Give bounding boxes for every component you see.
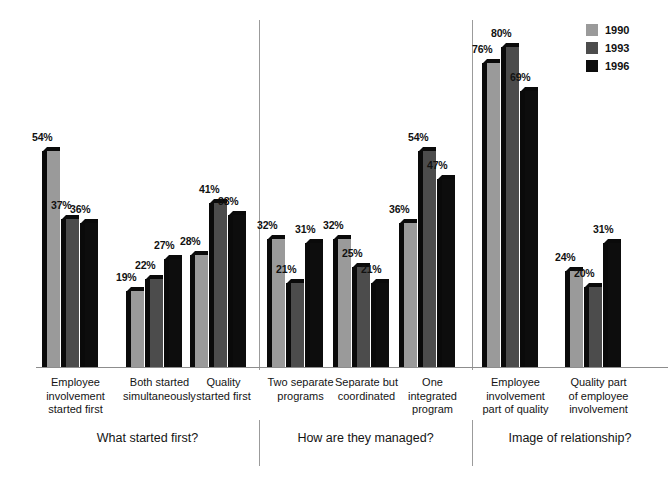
bar-value-label: 20%	[574, 267, 594, 279]
bar-value-label: 27%	[154, 239, 174, 251]
bar	[291, 283, 304, 367]
bar	[357, 267, 370, 367]
bar	[310, 243, 323, 367]
bar-value-label: 32%	[257, 219, 277, 231]
bar-value-label: 41%	[199, 183, 219, 195]
bar-front-face	[570, 271, 583, 367]
bar-front-face	[272, 239, 285, 367]
bar-front-face	[404, 223, 417, 367]
legend-swatch	[586, 60, 598, 72]
bar-value-label: 76%	[472, 43, 492, 55]
bar-front-face	[66, 219, 79, 367]
bar	[570, 271, 583, 367]
bar-value-label: 80%	[491, 27, 511, 39]
bar	[525, 91, 538, 367]
bar	[131, 291, 144, 367]
bar-value-label: 47%	[427, 159, 447, 171]
section-title: What started first?	[36, 431, 259, 445]
bar-front-face	[169, 259, 182, 367]
legend: 199019931996	[586, 22, 629, 76]
bar	[169, 259, 182, 367]
bar	[423, 151, 436, 367]
legend-item: 1996	[586, 58, 629, 73]
bar	[404, 223, 417, 367]
bar-value-label: 25%	[342, 247, 362, 259]
bar-front-face	[195, 255, 208, 367]
bar-value-label: 31%	[295, 223, 315, 235]
bar-chart: 54%37%36%19%22%27%28%41%38%32%21%31%32%2…	[0, 0, 668, 486]
bar-front-face	[131, 291, 144, 367]
bar	[376, 283, 389, 367]
bar-front-face	[525, 91, 538, 367]
bar-value-label: 54%	[32, 131, 52, 143]
bar	[214, 203, 227, 367]
bar-value-label: 69%	[510, 71, 530, 83]
bar-value-label: 28%	[180, 235, 200, 247]
bar-value-label: 37%	[51, 199, 71, 211]
bar-front-face	[423, 151, 436, 367]
legend-item: 1990	[586, 22, 629, 37]
bar-value-label: 32%	[323, 219, 343, 231]
bar-front-face	[608, 243, 621, 367]
bar	[85, 223, 98, 367]
bar-front-face	[357, 267, 370, 367]
bar	[272, 239, 285, 367]
section-title: How are they managed?	[259, 431, 472, 445]
bar-front-face	[376, 283, 389, 367]
bar-value-label: 21%	[361, 263, 381, 275]
bar-front-face	[47, 151, 60, 367]
legend-swatch	[586, 24, 598, 36]
bar-value-label: 31%	[593, 223, 613, 235]
bar	[608, 243, 621, 367]
bar-value-label: 38%	[218, 195, 238, 207]
bar	[47, 151, 60, 367]
x-axis-baseline	[36, 367, 668, 368]
bar	[442, 179, 455, 367]
bar	[66, 219, 79, 367]
bar	[150, 279, 163, 367]
bar-value-label: 21%	[276, 263, 296, 275]
bar-front-face	[150, 279, 163, 367]
panel-divider-2	[472, 20, 473, 370]
bar-value-label: 36%	[70, 203, 90, 215]
bar-value-label: 54%	[408, 131, 428, 143]
bar-front-face	[310, 243, 323, 367]
bar-front-face	[487, 63, 500, 367]
bar	[506, 47, 519, 367]
bar	[233, 215, 246, 367]
bar-front-face	[589, 287, 602, 367]
bar	[589, 287, 602, 367]
bar-value-label: 24%	[555, 251, 575, 263]
bar-front-face	[214, 203, 227, 367]
bar-value-label: 19%	[116, 271, 136, 283]
bar-front-face	[233, 215, 246, 367]
legend-item: 1993	[586, 40, 629, 55]
legend-swatch	[586, 42, 598, 54]
bar-front-face	[85, 223, 98, 367]
legend-label: 1996	[605, 60, 629, 72]
legend-label: 1990	[605, 24, 629, 36]
bar-front-face	[442, 179, 455, 367]
panel-divider-1	[259, 20, 260, 370]
bar-value-label: 36%	[389, 203, 409, 215]
category-label: Quality part of employee involvement	[544, 376, 654, 417]
bar-front-face	[291, 283, 304, 367]
legend-label: 1993	[605, 42, 629, 54]
section-title: Image of relationship?	[472, 431, 668, 445]
bar-value-label: 22%	[135, 259, 155, 271]
bar	[195, 255, 208, 367]
bar-front-face	[506, 47, 519, 367]
bar	[487, 63, 500, 367]
